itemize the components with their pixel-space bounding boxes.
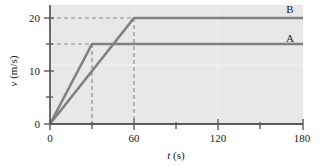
x-axis-title: t (s) (167, 150, 184, 161)
velocity-time-chart: 20 10 0 0 60 120 180 t (s) v (m/s) B A (0, 0, 320, 167)
x-axis-title-unit: (s) (170, 149, 184, 161)
y-tick-label-20: 20 (18, 13, 40, 24)
series-label-a: A (286, 33, 294, 44)
y-axis-title-variable: v (7, 82, 19, 87)
x-tick-label-0: 0 (47, 133, 53, 144)
series-label-b: B (286, 4, 293, 15)
x-tick-label-120: 120 (210, 133, 227, 144)
y-axis-title: v (m/s) (8, 56, 19, 87)
y-axis-title-unit: (m/s) (7, 56, 19, 82)
x-tick-label-60: 60 (129, 133, 140, 144)
x-tick-label-180: 180 (294, 133, 311, 144)
y-tick-label-0: 0 (18, 119, 40, 130)
y-tick-label-10: 10 (18, 66, 40, 77)
